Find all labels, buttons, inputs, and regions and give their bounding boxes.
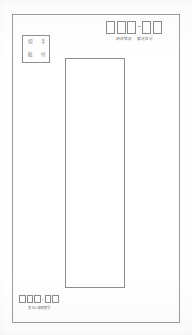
sender-postal-code-cells: - bbox=[19, 295, 60, 303]
recipient-postal-code-caption: 請求取扱／郵送区分 bbox=[116, 36, 154, 41]
envelope-scan-page: 切 手 貼 付 - 請求取扱／郵送区分 - 差出人郵便番号 bbox=[0, 0, 192, 335]
recipient-postal-code-group: - 請求取扱／郵送区分 bbox=[106, 21, 163, 41]
stamp-char-1: 切 bbox=[27, 40, 31, 44]
recipient-code-cell-5[interactable] bbox=[153, 21, 162, 34]
sender-postal-code-group: - 差出人郵便番号 bbox=[19, 295, 60, 310]
sender-code-cell-4[interactable] bbox=[45, 295, 52, 303]
stamp-char-3: 貼 bbox=[27, 53, 31, 57]
recipient-code-cell-2[interactable] bbox=[117, 21, 126, 34]
stamp-affix-box[interactable]: 切 手 貼 付 bbox=[22, 35, 50, 63]
stamp-char-4: 付 bbox=[40, 53, 44, 57]
recipient-code-cell-1[interactable] bbox=[106, 21, 115, 34]
sender-code-cell-2[interactable] bbox=[27, 295, 34, 303]
stamp-char-2: 手 bbox=[40, 40, 44, 44]
recipient-code-cell-4[interactable] bbox=[142, 21, 151, 34]
sender-code-separator: - bbox=[42, 296, 44, 302]
sender-code-cell-5[interactable] bbox=[52, 295, 59, 303]
sender-postal-code-caption: 差出人郵便番号 bbox=[28, 304, 50, 309]
sender-code-cell-1[interactable] bbox=[19, 295, 26, 303]
address-entry-area[interactable] bbox=[65, 58, 125, 288]
recipient-code-separator: - bbox=[138, 23, 141, 31]
recipient-code-cell-3[interactable] bbox=[127, 21, 136, 34]
sender-code-cell-3[interactable] bbox=[34, 295, 41, 303]
recipient-postal-code-cells: - bbox=[106, 21, 163, 34]
